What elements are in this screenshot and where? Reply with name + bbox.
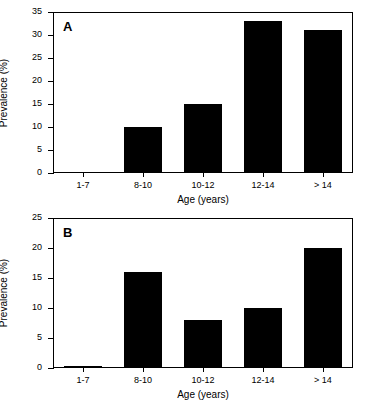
y-tick-label: 35 — [9, 7, 42, 16]
x-tick-label: 10-12 — [173, 181, 233, 190]
y-tick-mark — [48, 35, 54, 36]
x-tick-label: 12-14 — [233, 376, 293, 385]
x-axis-title-a: Age (years) — [0, 195, 365, 205]
x-tick-label: > 14 — [293, 376, 353, 385]
y-tick-label: 10 — [9, 303, 42, 312]
bar-10-12 — [184, 104, 222, 173]
bar-8-10 — [124, 272, 162, 368]
y-tick-label: 0 — [9, 168, 42, 177]
figure-two-panel-bar-chart: A 05101520253035 1-78-1010-1212-14> 14 P… — [0, 0, 365, 416]
panel-b: B 0510152025 1-78-1010-1212-14> 14 Preva… — [0, 206, 365, 416]
x-tick-label: 8-10 — [113, 181, 173, 190]
x-tick-mark — [83, 368, 84, 372]
x-axis-title-b: Age (years) — [0, 390, 365, 400]
y-tick-mark — [48, 58, 54, 59]
y-tick-label: 15 — [9, 273, 42, 282]
x-tick-mark — [143, 173, 144, 177]
x-tick-mark — [323, 368, 324, 372]
y-tick-label: 20 — [9, 243, 42, 252]
bar-14 — [304, 30, 342, 173]
bar-14 — [304, 248, 342, 368]
x-tick-mark — [263, 368, 264, 372]
y-tick-mark — [48, 248, 54, 249]
bar-10-12 — [184, 320, 222, 368]
y-tick-label: 15 — [9, 99, 42, 108]
y-axis-title-a: Prevalence (%) — [0, 58, 9, 126]
y-axis-title-b: Prevalence (%) — [0, 259, 9, 327]
x-tick-mark — [263, 173, 264, 177]
panel-label-b: B — [63, 226, 72, 239]
y-tick-label: 25 — [9, 53, 42, 62]
y-tick-mark — [48, 173, 54, 174]
y-tick-mark — [48, 104, 54, 105]
y-tick-label: 10 — [9, 122, 42, 131]
panel-label-a: A — [63, 20, 72, 33]
y-tick-label: 5 — [9, 145, 42, 154]
x-tick-mark — [323, 173, 324, 177]
x-tick-label: 1-7 — [53, 181, 113, 190]
x-tick-label: 10-12 — [173, 376, 233, 385]
y-tick-mark — [48, 12, 54, 13]
x-tick-mark — [203, 173, 204, 177]
y-tick-label: 0 — [9, 363, 42, 372]
y-tick-mark — [48, 127, 54, 128]
x-tick-label: 1-7 — [53, 376, 113, 385]
panel-a: A 05101520253035 1-78-1010-1212-14> 14 P… — [0, 0, 365, 205]
x-tick-mark — [83, 173, 84, 177]
y-tick-mark — [48, 278, 54, 279]
x-tick-mark — [143, 368, 144, 372]
y-tick-label: 20 — [9, 76, 42, 85]
y-tick-label: 30 — [9, 30, 42, 39]
y-tick-label: 5 — [9, 333, 42, 342]
y-tick-mark — [48, 150, 54, 151]
x-tick-mark — [203, 368, 204, 372]
x-tick-label: 12-14 — [233, 181, 293, 190]
bar-8-10 — [124, 127, 162, 173]
y-tick-label: 25 — [9, 213, 42, 222]
x-tick-label: 8-10 — [113, 376, 173, 385]
y-tick-mark — [48, 368, 54, 369]
bar-12-14 — [244, 21, 282, 173]
y-tick-mark — [48, 218, 54, 219]
y-tick-mark — [48, 81, 54, 82]
bar-12-14 — [244, 308, 282, 368]
x-tick-label: > 14 — [293, 181, 353, 190]
y-tick-mark — [48, 338, 54, 339]
y-tick-mark — [48, 308, 54, 309]
